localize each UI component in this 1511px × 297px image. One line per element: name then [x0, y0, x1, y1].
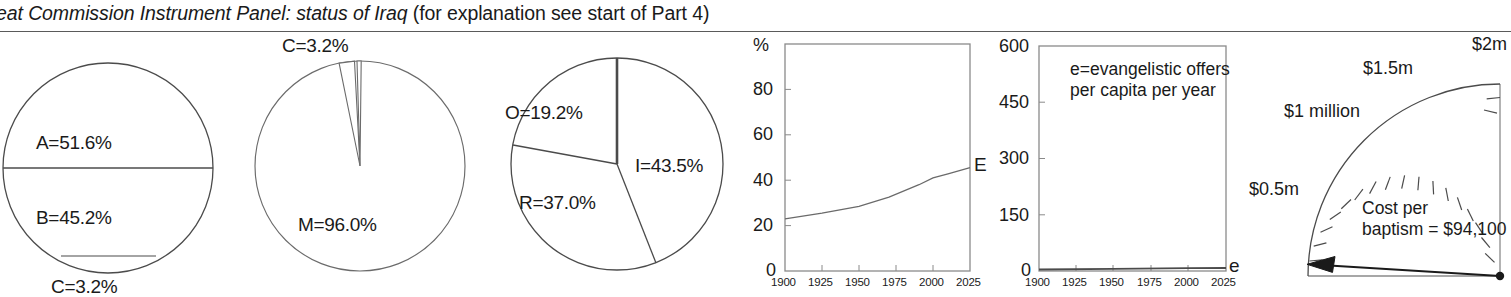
muslim-pie-svg: [238, 33, 483, 292]
chart-annotation-line-1: e=evangelistic offers: [1070, 59, 1230, 80]
gauge-tick-label-0-5m: $0.5m: [1249, 179, 1299, 200]
x-axis-tick-label-2025: 2025: [1211, 276, 1236, 288]
y-axis-label-percent: %: [753, 35, 769, 56]
pie-slice-label-i: I=43.5%: [635, 155, 703, 177]
evangelistic-offers-chart: 600 450 300 150 0 1900 1925 1950 1975 20…: [993, 33, 1251, 292]
x-axis-tick-label-2000: 2000: [919, 276, 944, 288]
evangelization-pie-chart: O=19.2% I=43.5% R=37.0%: [478, 33, 746, 292]
gauge-tick-label-2m: $2m: [1472, 34, 1507, 55]
pie-slice-label-c: C=3.2%: [282, 35, 348, 57]
header-divider: [0, 31, 1511, 32]
gauge-tick: [1370, 182, 1377, 194]
cost-per-baptism-gauge: $0.5m $1 million $1.5m $2m Cost per bapt…: [1249, 33, 1511, 292]
gauge-tick: [1484, 110, 1497, 113]
evangelization-pie-svg: [478, 33, 746, 292]
y-axis-tick-label-600: 600: [999, 36, 1029, 57]
gauge-tick: [1433, 181, 1434, 194]
pie-slice-label-o: O=19.2%: [505, 102, 583, 124]
gauge-tick: [1321, 227, 1333, 233]
pie-slice-label-b: B=45.2%: [36, 207, 112, 229]
x-axis-tick-label-1950: 1950: [845, 276, 870, 288]
gauge-tick-label-1m: $1 million: [1284, 101, 1360, 122]
evangelized-chart-svg: [745, 33, 995, 292]
page-header: eat Commission Instrument Panel: status …: [0, 0, 1511, 33]
pie-slice-label-r: R=37.0%: [519, 192, 596, 214]
y-axis-tick-label-80: 80: [753, 79, 773, 100]
religion-pie-chart: A=51.6% B=45.2% C=3.2%: [0, 33, 240, 292]
x-axis-tick-label-2025: 2025: [956, 276, 981, 288]
x-axis-tick-label-1900: 1900: [771, 276, 796, 288]
gauge-tick: [1330, 212, 1341, 220]
gauge-tick: [1457, 197, 1461, 210]
religion-pie-svg: [0, 33, 240, 292]
gauge-needle-arrowhead: [1307, 257, 1335, 273]
x-axis-tick-label-1900: 1900: [1025, 276, 1050, 288]
x-axis-tick-label-1975: 1975: [1137, 276, 1162, 288]
gauge-tick: [1341, 200, 1351, 209]
gauge-tick-label-1-5m: $1.5m: [1363, 58, 1413, 79]
series-label-e: e: [1229, 255, 1240, 277]
x-axis-tick-label-1925: 1925: [808, 276, 833, 288]
y-axis-tick-label-20: 20: [753, 215, 773, 236]
y-axis-tick-label-40: 40: [753, 170, 773, 191]
gauge-note-line-2: baptism = $94,100: [1362, 219, 1506, 240]
pie-slice-label-a: A=51.6%: [36, 132, 112, 154]
gauge-note-line-1: Cost per: [1362, 198, 1428, 219]
gauge-tick: [1487, 98, 1500, 99]
x-axis-tick-label-1950: 1950: [1099, 276, 1124, 288]
x-axis-tick-label-1975: 1975: [882, 276, 907, 288]
gauge-tick: [1385, 177, 1390, 190]
plot-frame: [785, 44, 970, 271]
evangelized-line-chart: % 80 60 40 20 0 1900 1925 1950 1975 2000…: [745, 33, 995, 292]
gauge-tick: [1402, 175, 1405, 188]
page-title-roman: (for explanation see start of Part 4): [413, 2, 710, 24]
page-title-italic: eat Commission Instrument Panel: status …: [0, 2, 408, 24]
gauge-tick: [1485, 253, 1494, 262]
pie-slice-label-m: M=96.0%: [298, 214, 377, 236]
x-axis-tick-label-2000: 2000: [1174, 276, 1199, 288]
y-axis-tick-label-450: 450: [999, 92, 1029, 113]
pie-slice-label-c: C=3.2%: [51, 276, 117, 297]
y-axis-tick-label-150: 150: [999, 205, 1029, 226]
gauge-tick: [1446, 188, 1449, 201]
x-axis-tick-label-1925: 1925: [1062, 276, 1087, 288]
chart-annotation-line-2: per capita per year: [1070, 80, 1216, 101]
gauge-pivot: [1496, 272, 1504, 280]
y-axis-tick-label-60: 60: [753, 124, 773, 145]
gauge-needle: [1321, 265, 1500, 276]
muslim-pie-chart: C=3.2% M=96.0%: [238, 33, 483, 292]
y-axis-tick-label-300: 300: [999, 148, 1029, 169]
page-title: eat Commission Instrument Panel: status …: [0, 2, 709, 25]
gauge-tick: [1418, 177, 1419, 190]
series-label-E: E: [974, 154, 987, 176]
gauge-tick: [1314, 243, 1327, 246]
